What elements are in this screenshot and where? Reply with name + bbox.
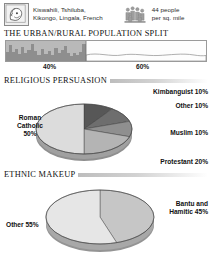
heading-rule <box>78 173 208 177</box>
religion-section-heading: RELIGIOUS PERSUASION <box>0 76 212 85</box>
urban-percent-label: 40% <box>43 63 56 70</box>
urban-rural-labels: 40% 60% <box>5 62 207 73</box>
religion-pie-chart: Kimbanguist 10% Other 10% Muslim 10% Pro… <box>0 85 212 169</box>
languages-line-2: Kikongo, Lingala, French <box>33 14 103 21</box>
urban-rural-bar <box>5 40 207 62</box>
split-section-heading: THE URBAN/RURAL POPULATION SPLIT <box>0 29 212 38</box>
label-other-religion: Other 10% <box>104 102 208 110</box>
religion-title: RELIGIOUS PERSUASION <box>4 76 107 85</box>
density-line-1: 44 people <box>152 6 180 13</box>
languages-text: Kiswahili, Tshiluba, Kikongo, Lingala, F… <box>33 3 103 21</box>
label-kimbanguist: Kimbanguist 10% <box>104 88 208 96</box>
density-text: 44 people per sq. mile <box>152 3 185 21</box>
ethnic-section-heading: ETHNIC MAKEUP <box>0 170 212 179</box>
speaking-head-icon <box>4 3 29 26</box>
label-protestant: Protestant 20% <box>98 158 208 166</box>
facts-strip: Kiswahili, Tshiluba, Kikongo, Lingala, F… <box>0 0 212 26</box>
split-title: THE URBAN/RURAL POPULATION SPLIT <box>4 29 168 38</box>
label-roman-catholic: Roman Catholic 50% <box>5 114 55 138</box>
heading-rule <box>110 79 208 83</box>
ethnic-title: ETHNIC MAKEUP <box>4 170 75 179</box>
languages-line-1: Kiswahili, Tshiluba, <box>33 6 86 13</box>
languages-fact: Kiswahili, Tshiluba, Kikongo, Lingala, F… <box>4 3 119 26</box>
ethnic-pie-chart: Bantu and Hamitic 45% Other 55% <box>0 179 212 257</box>
infographic-page: Kiswahili, Tshiluba, Kikongo, Lingala, F… <box>0 0 212 269</box>
rural-percent-label: 60% <box>136 63 149 70</box>
label-bantu-hamitic: Bantu and Hamitic 45% <box>128 200 208 216</box>
density-line-2: per sq. mile <box>152 14 185 21</box>
ethnic-pie-svg <box>0 179 212 257</box>
label-other-ethnic: Other 55% <box>6 221 76 229</box>
label-muslim: Muslim 10% <box>108 129 208 137</box>
urban-rural-chart: 40% 60% <box>0 38 212 73</box>
population-density-people-icon <box>123 3 148 26</box>
density-fact: 44 people per sq. mile <box>123 3 208 26</box>
